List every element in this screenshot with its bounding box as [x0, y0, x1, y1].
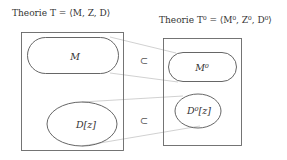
connector-d-top	[82, 96, 183, 102]
subset-symbol-m: ⊂	[140, 55, 148, 66]
connector-m-bottom	[110, 73, 178, 82]
connector-m-top	[110, 37, 176, 53]
left-theory-title: Theorie T = ⟨M, Z, D⟩	[12, 8, 110, 18]
set-d0-label: D⁰[z]	[187, 105, 211, 116]
subset-symbol-d: ⊂	[140, 115, 148, 126]
set-d-label: D[z]	[76, 119, 96, 130]
right-theory-title: Theorie T⁰ = ⟨M⁰, Z⁰, D⁰⟩	[159, 15, 272, 25]
set-m-label: M	[70, 51, 80, 62]
set-m0-label: M⁰	[195, 62, 209, 73]
